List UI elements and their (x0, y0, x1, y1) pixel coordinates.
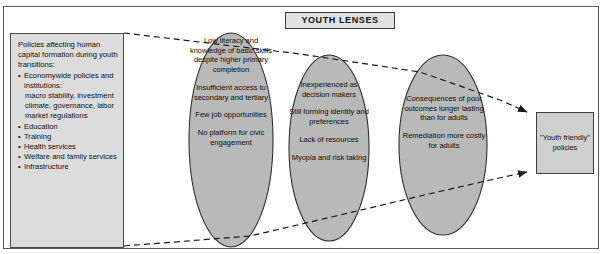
lens-text-block: Few job opportunities (185, 110, 277, 120)
lens-three-text: Consequences of poor outcomes longer las… (398, 94, 490, 151)
policy-item-label: Health services (24, 142, 76, 151)
policy-box-list: Economywide policies and institutions: m… (18, 71, 118, 173)
list-item: Training (18, 132, 118, 142)
lens-two-text: Inexperienced as decision makers Still f… (287, 80, 371, 162)
outcome-box-text: "Youth friendly" policies (537, 133, 593, 152)
policy-item-label: Welfare and family services (24, 152, 117, 161)
lens-text-block: Myopia and risk taking (287, 153, 371, 163)
figure-root: · · · · · · · · · YOUTH LENSES Policies (0, 0, 604, 254)
lens-text-block: Lack of resources (287, 135, 371, 145)
lens-one-text: Low literacy and knowledge of basic skil… (185, 36, 277, 147)
policy-box-intro: Policies affecting human capital formati… (18, 40, 118, 71)
lens-text-block: No platform for civic engagement (185, 128, 277, 147)
list-item: Economywide policies and institutions: m… (18, 71, 118, 122)
policy-item-label: Infrastructure (24, 162, 69, 171)
list-item: Infrastructure (18, 162, 118, 172)
list-item: Health services (18, 142, 118, 152)
list-item: Welfare and family services (18, 152, 118, 162)
lens-text-block: Remediation more costly for adults (398, 131, 490, 150)
youth-lenses-header: YOUTH LENSES (285, 12, 395, 29)
lens-text-block: Inexperienced as decision makers (287, 80, 371, 99)
lens-text-block: Still forming identity and preferences (287, 107, 371, 126)
lens-text-block: Consequences of poor outcomes longer las… (398, 94, 490, 123)
policy-item-detail: macro stability, investment climate, gov… (24, 91, 118, 122)
outcome-box: "Youth friendly" policies (536, 112, 594, 174)
lens-text-block: Low literacy and knowledge of basic skil… (185, 36, 277, 75)
policy-input-box: Policies affecting human capital formati… (10, 33, 124, 248)
policy-item-label: Training (24, 132, 51, 141)
youth-lenses-header-label: YOUTH LENSES (301, 16, 378, 25)
lens-text-block: Insufficient access to secondary and ter… (185, 83, 277, 102)
policy-item-label: Economywide policies and institutions: (24, 71, 114, 90)
policy-item-label: Education (24, 122, 58, 131)
list-item: Education (18, 122, 118, 132)
